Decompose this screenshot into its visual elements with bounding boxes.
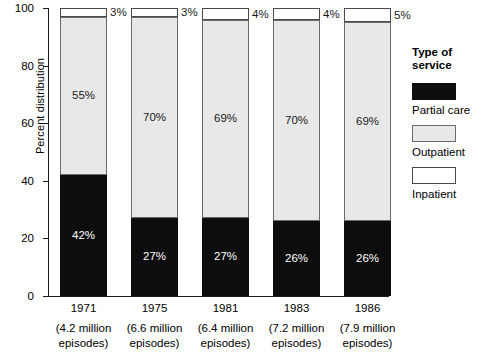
segment-value-inpatient-1981: 4% <box>252 8 269 20</box>
segment-value-outpatient-1975: 70% <box>143 112 166 124</box>
segment-inpatient-1986[interactable]: 5% <box>344 8 391 22</box>
segment-value-outpatient-1971: 55% <box>72 90 95 102</box>
segment-value-partial-1983: 26% <box>285 253 308 265</box>
x-axis-line <box>48 296 389 297</box>
segment-value-inpatient-1983: 4% <box>323 8 340 20</box>
y-axis-line <box>48 8 49 297</box>
y-tick-label-60: 60 <box>21 117 34 129</box>
segment-value-outpatient-1983: 70% <box>285 115 308 127</box>
y-tick-100: 100 <box>43 8 48 9</box>
segment-outpatient-1986[interactable]: 69% <box>344 22 391 221</box>
segment-inpatient-1975[interactable]: 3% <box>131 8 178 17</box>
legend-title-line2: service <box>412 59 490 72</box>
x-label-episodes-line1-1986: (7.9 million <box>313 321 423 336</box>
legend-swatch-outpatient-icon <box>412 125 456 142</box>
segment-outpatient-1971[interactable]: 55% <box>60 17 107 175</box>
y-tick-0: 0 <box>43 296 48 297</box>
segment-value-partial-1971: 42% <box>72 230 95 242</box>
segment-inpatient-1971[interactable]: 3% <box>60 8 107 17</box>
segment-value-partial-1975: 27% <box>143 251 166 263</box>
segment-value-partial-1981: 27% <box>214 251 237 263</box>
x-label-episodes-line2-1986: episodes) <box>313 336 423 351</box>
bar-1981[interactable]: 27% 69% 4% <box>202 8 249 296</box>
x-label-1986: 1986 (7.9 million episodes) <box>313 301 423 351</box>
segment-inpatient-1983[interactable]: 4% <box>273 8 320 20</box>
y-tick-80: 80 <box>43 66 48 67</box>
segment-value-outpatient-1981: 69% <box>214 113 237 125</box>
y-tick-label-100: 100 <box>15 2 34 14</box>
segment-outpatient-1975[interactable]: 70% <box>131 17 178 219</box>
segment-partial-care-1983[interactable]: 26% <box>273 221 320 296</box>
legend-label-inpatient: Inpatient <box>412 188 490 200</box>
segment-value-inpatient-1971: 3% <box>110 6 127 18</box>
segment-value-outpatient-1986: 69% <box>356 116 379 128</box>
segment-partial-care-1975[interactable]: 27% <box>131 218 178 296</box>
segment-value-partial-1986: 26% <box>356 253 379 265</box>
legend-item-partial-care[interactable]: Partial care <box>412 83 490 116</box>
bar-1975[interactable]: 27% 70% 3% <box>131 8 178 296</box>
bar-1971[interactable]: 42% 55% 3% <box>60 8 107 296</box>
bar-1983[interactable]: 26% 70% 4% <box>273 8 320 296</box>
plot-area: 100 80 60 40 20 0 42% 55% 3% <box>48 8 388 296</box>
legend-label-partial-care: Partial care <box>412 104 490 116</box>
legend-title: Type of service <box>412 46 490 72</box>
chart-container: Percent distribution 100 80 60 40 20 0 4… <box>0 0 490 356</box>
segment-inpatient-1981[interactable]: 4% <box>202 8 249 20</box>
y-tick-60: 60 <box>43 123 48 124</box>
x-label-year-1986: 1986 <box>313 301 423 316</box>
y-tick-40: 40 <box>43 181 48 182</box>
bar-1986[interactable]: 26% 69% 5% <box>344 8 391 296</box>
legend-title-line1: Type of <box>412 46 490 59</box>
legend-item-inpatient[interactable]: Inpatient <box>412 167 490 200</box>
legend-swatch-partial-care-icon <box>412 83 456 100</box>
y-tick-label-80: 80 <box>21 60 34 72</box>
segment-value-inpatient-1975: 3% <box>181 6 198 18</box>
segment-value-inpatient-1986: 5% <box>394 9 411 21</box>
y-axis-title: Percent distribution <box>34 6 46 206</box>
segment-partial-care-1986[interactable]: 26% <box>344 221 391 296</box>
y-tick-label-40: 40 <box>21 175 34 187</box>
segment-partial-care-1971[interactable]: 42% <box>60 175 107 296</box>
segment-outpatient-1981[interactable]: 69% <box>202 20 249 219</box>
segment-partial-care-1981[interactable]: 27% <box>202 218 249 296</box>
chart-legend: Type of service Partial care Outpatient … <box>412 46 490 209</box>
segment-outpatient-1983[interactable]: 70% <box>273 20 320 222</box>
legend-label-outpatient: Outpatient <box>412 146 490 158</box>
y-tick-20: 20 <box>43 238 48 239</box>
legend-swatch-inpatient-icon <box>412 167 456 184</box>
legend-item-outpatient[interactable]: Outpatient <box>412 125 490 158</box>
y-tick-label-20: 20 <box>21 232 34 244</box>
